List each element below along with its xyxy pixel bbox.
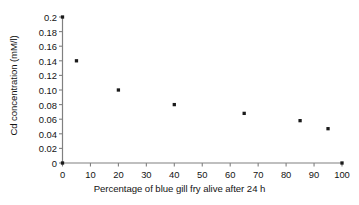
- x-axis-tick-label: 30: [141, 169, 151, 180]
- scatter-chart: Cd concentration (mM/l) 00.020.040.060.0…: [0, 0, 359, 205]
- x-axis-tick-label: 60: [225, 169, 235, 180]
- x-axis-tick-label: 40: [169, 169, 179, 180]
- x-axis-tick-label: 70: [253, 169, 263, 180]
- x-axis-tick-label: 0: [60, 169, 65, 180]
- x-axis-title: Percentage of blue gill fry alive after …: [0, 183, 359, 194]
- x-axis-tick-label: 10: [85, 169, 95, 180]
- x-axis-tick-label: 20: [113, 169, 123, 180]
- x-axis-tick-label: 100: [334, 169, 350, 180]
- x-axis-tick-labels: 0102030405060708090100: [0, 0, 359, 205]
- x-axis-tick-label: 90: [309, 169, 319, 180]
- x-axis-tick-label: 50: [197, 169, 207, 180]
- x-axis-tick-label: 80: [281, 169, 291, 180]
